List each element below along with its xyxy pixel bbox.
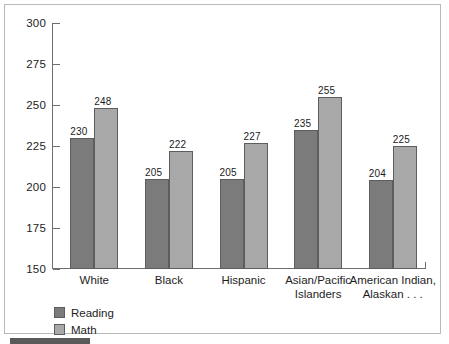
bar-math[interactable]: 255 xyxy=(318,97,342,269)
legend-swatch-math xyxy=(54,324,65,335)
bar-group: 204225 xyxy=(369,23,417,269)
legend-label: Reading xyxy=(71,307,114,319)
x-axis-category-label: Asian/PacificIslanders xyxy=(285,273,351,301)
bar-value-label: 255 xyxy=(318,85,335,96)
y-axis-tick-label: 150 xyxy=(5,263,46,275)
y-axis-tick-label: 300 xyxy=(5,17,46,29)
category-label-line: American Indian, xyxy=(350,274,436,286)
bar-value-label: 205 xyxy=(220,167,237,178)
bar-value-label: 205 xyxy=(145,167,162,178)
bar-math[interactable]: 248 xyxy=(94,108,118,269)
bar-value-label: 248 xyxy=(94,96,111,107)
chart-legend: ReadingMath xyxy=(54,305,114,339)
category-label-line: Islanders xyxy=(285,287,351,301)
category-label-line: White xyxy=(80,274,109,286)
legend-swatch-reading xyxy=(54,307,65,318)
y-axis-tick-label: 275 xyxy=(5,58,46,70)
category-label-line: Black xyxy=(155,274,183,286)
legend-item-reading[interactable]: Reading xyxy=(54,305,114,320)
scan-artifact-strip xyxy=(10,338,90,344)
bar-reading[interactable]: 235 xyxy=(294,130,318,269)
bar-value-label: 204 xyxy=(369,168,386,179)
bar-value-label: 230 xyxy=(70,126,87,137)
bar-layer: 230248205222205227235255204225 xyxy=(53,23,426,269)
bar-reading[interactable]: 205 xyxy=(220,179,244,269)
bar-reading[interactable]: 230 xyxy=(70,138,94,269)
bar-group: 205227 xyxy=(220,23,268,269)
bar-reading[interactable]: 205 xyxy=(145,179,169,269)
x-axis-category-label: Hispanic xyxy=(221,273,265,287)
bar-math[interactable]: 225 xyxy=(393,146,417,269)
x-axis-category-labels: WhiteBlackHispanicAsian/PacificIslanders… xyxy=(53,273,426,305)
category-label-line: Asian/Pacific xyxy=(285,274,351,286)
x-axis-category-label: American Indian,Alaskan . . . xyxy=(350,273,436,301)
x-axis-category-label: Black xyxy=(155,273,183,287)
y-axis-tick xyxy=(53,269,60,270)
legend-label: Math xyxy=(71,324,97,336)
y-axis-tick-labels: 150175200225250275300 xyxy=(5,23,46,269)
legend-item-math[interactable]: Math xyxy=(54,322,114,337)
bar-group: 235255 xyxy=(294,23,342,269)
category-label-line: Hispanic xyxy=(221,274,265,286)
plot-area: 230248205222205227235255204225 xyxy=(52,23,426,269)
x-axis-category-label: White xyxy=(80,273,109,287)
y-axis-tick-label: 250 xyxy=(5,99,46,111)
bar-value-label: 225 xyxy=(393,134,410,145)
chart-figure-frame: 150175200225250275300 230248205222205227… xyxy=(4,4,441,334)
bar-value-label: 222 xyxy=(169,139,186,150)
bar-math[interactable]: 222 xyxy=(169,151,193,269)
y-axis-tick-label: 200 xyxy=(5,181,46,193)
y-axis-tick-label: 175 xyxy=(5,222,46,234)
bar-value-label: 227 xyxy=(244,131,261,142)
y-axis-tick-label: 225 xyxy=(5,140,46,152)
bar-value-label: 235 xyxy=(294,118,311,129)
bar-group: 230248 xyxy=(70,23,118,269)
category-label-line: Alaskan . . . xyxy=(350,287,436,301)
bar-reading[interactable]: 204 xyxy=(369,180,393,269)
bar-group: 205222 xyxy=(145,23,193,269)
bar-math[interactable]: 227 xyxy=(244,143,268,269)
